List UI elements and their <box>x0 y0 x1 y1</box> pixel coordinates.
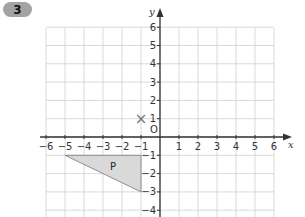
y-tick-label: 2 <box>150 95 156 106</box>
y-tick-label: −3 <box>141 186 156 197</box>
y-tick-label: 5 <box>150 40 156 51</box>
coordinate-grid: −6−5−4−3−2−1123456654321−1−2−3−4 x y O P… <box>0 0 305 217</box>
y-axis-label: y <box>148 6 155 17</box>
y-tick-label: −1 <box>141 150 156 161</box>
x-tick-label: 2 <box>195 141 201 152</box>
x-tick-label: 3 <box>214 141 220 152</box>
y-tick-label: −2 <box>141 168 156 179</box>
x-axis-label: x <box>288 139 294 150</box>
y-axis-arrow-icon <box>157 8 164 17</box>
y-tick-label: 3 <box>150 77 156 88</box>
x-tick-label: −4 <box>77 141 92 152</box>
x-tick-label: 1 <box>176 141 182 152</box>
x-tick-label: 6 <box>271 141 277 152</box>
x-tick-label: −6 <box>39 141 54 152</box>
y-tick-label: −4 <box>141 205 156 216</box>
cross-marker-icon: × <box>135 110 148 128</box>
x-tick-label: 4 <box>233 141 239 152</box>
shape-p-label: P <box>110 161 116 172</box>
x-tick-label: 5 <box>252 141 258 152</box>
x-tick-label: −5 <box>58 141 73 152</box>
axes <box>40 8 292 217</box>
x-tick-label: −3 <box>96 141 111 152</box>
origin-label: O <box>150 124 158 135</box>
x-tick-label: −2 <box>115 141 130 152</box>
y-tick-label: 4 <box>150 58 156 69</box>
y-tick-label: 6 <box>150 22 156 33</box>
y-tick-label: 1 <box>150 113 156 124</box>
